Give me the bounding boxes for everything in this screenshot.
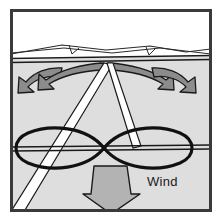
kite-wind-diagram-svg: Wind xyxy=(0,0,222,221)
diagram-container: Wind xyxy=(0,0,222,221)
flight-path-crossover-node xyxy=(102,146,107,151)
wind-label: Wind xyxy=(147,174,178,189)
